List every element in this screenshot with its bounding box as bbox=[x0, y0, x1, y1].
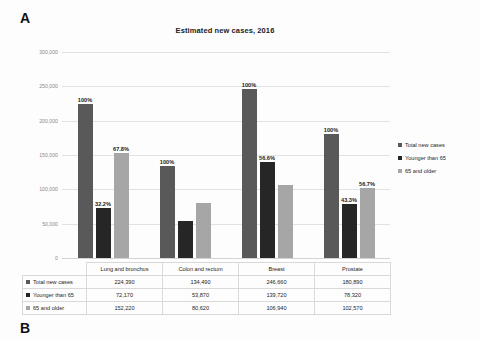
chart-bar: 100% bbox=[78, 104, 93, 258]
table-column-header: Breast bbox=[239, 263, 315, 276]
bar-value-label: 43.3% bbox=[341, 197, 357, 203]
bar-value-label: 100% bbox=[160, 159, 174, 165]
table-row: Younger than 6572,17053,870139,72078,320 bbox=[23, 289, 391, 302]
table-row-swatch-icon bbox=[26, 280, 30, 284]
legend-item-label: Younger than 65 bbox=[405, 155, 446, 161]
table-row: Total new cases224,390134,490246,660180,… bbox=[23, 276, 391, 289]
bar-value-label: 100% bbox=[324, 127, 338, 133]
table-row-swatch-icon bbox=[26, 293, 30, 297]
chart-bar: 56.7% bbox=[360, 188, 375, 258]
table-cell: 246,660 bbox=[239, 276, 315, 289]
table-header-row: Lung and bronchusColon and rectumBreastP… bbox=[23, 263, 391, 276]
bar-value-label: 56.7% bbox=[359, 181, 375, 187]
table-cell: 180,890 bbox=[315, 276, 391, 289]
legend-swatch-icon bbox=[398, 156, 402, 160]
chart-bar: 100% bbox=[242, 89, 257, 258]
table-row-header: 65 and older bbox=[23, 302, 87, 315]
table-cell: 152,220 bbox=[87, 302, 163, 315]
legend-item[interactable]: Younger than 65 bbox=[398, 155, 480, 161]
legend-swatch-icon bbox=[398, 143, 402, 147]
y-axis-tick-label: 100,000 bbox=[39, 186, 58, 192]
legend-item[interactable]: Total new cases bbox=[398, 142, 480, 148]
table-cell: 72,170 bbox=[87, 289, 163, 302]
table-cell: 53,870 bbox=[163, 289, 239, 302]
table-cell: 139,720 bbox=[239, 289, 315, 302]
chart-bar bbox=[178, 221, 193, 258]
chart-bar: 100% bbox=[324, 134, 339, 258]
chart-bar: 67.8% bbox=[114, 153, 129, 258]
chart-bar bbox=[278, 185, 293, 258]
chart-bar: 32.2% bbox=[96, 208, 111, 258]
table-row-header: Total new cases bbox=[23, 276, 87, 289]
chart-data-table: Lung and bronchusColon and rectumBreastP… bbox=[22, 262, 391, 315]
chart-bar: 43.3% bbox=[342, 204, 357, 258]
table-cell: 80,620 bbox=[163, 302, 239, 315]
table-column-header: Colon and rectum bbox=[163, 263, 239, 276]
table-column-header: Prostate bbox=[315, 263, 391, 276]
y-axis-tick-label: 150,000 bbox=[39, 152, 58, 158]
chart-bar: 100% bbox=[160, 166, 175, 258]
table-row-label: Total new cases bbox=[33, 279, 73, 285]
chart-bar bbox=[196, 203, 211, 258]
panel-label-b: B bbox=[20, 320, 30, 336]
y-axis-tick-label: 200,000 bbox=[39, 118, 58, 124]
bar-group: 100%43.3%56.7% bbox=[308, 52, 390, 258]
table-cell: 106,940 bbox=[239, 302, 315, 315]
table-cell: 102,570 bbox=[315, 302, 391, 315]
bar-group: 100%32.2%67.8% bbox=[62, 52, 144, 258]
table-corner-cell bbox=[23, 263, 87, 276]
table-cell: 224,390 bbox=[87, 276, 163, 289]
legend-item[interactable]: 65 and older bbox=[398, 168, 480, 174]
table-row-swatch-icon bbox=[26, 306, 30, 310]
table-row-label: Younger than 65 bbox=[33, 292, 74, 298]
bar-group: 100% bbox=[144, 52, 226, 258]
table-row: 65 and older152,22080,620106,940102,570 bbox=[23, 302, 391, 315]
y-axis-tick-label: 0 bbox=[55, 255, 58, 261]
chart-gridline: 0 bbox=[62, 258, 390, 259]
y-axis-tick-label: 250,000 bbox=[39, 83, 58, 89]
legend-item-label: Total new cases bbox=[405, 142, 445, 148]
chart-legend: Total new casesYounger than 6565 and old… bbox=[398, 142, 480, 181]
chart-plot-area: 300,000250,000200,000150,000100,00050,00… bbox=[62, 52, 390, 258]
table-column-header: Lung and bronchus bbox=[87, 263, 163, 276]
table-cell: 134,490 bbox=[163, 276, 239, 289]
bar-value-label: 32.2% bbox=[95, 201, 111, 207]
bar-value-label: 100% bbox=[78, 97, 92, 103]
table-row-label: 65 and older bbox=[33, 305, 64, 311]
chart-title: Estimated new cases, 2016 bbox=[60, 26, 390, 35]
legend-item-label: 65 and older bbox=[405, 168, 436, 174]
bar-value-label: 56.6% bbox=[259, 155, 275, 161]
table-cell: 78,320 bbox=[315, 289, 391, 302]
table-row-header: Younger than 65 bbox=[23, 289, 87, 302]
bar-value-label: 100% bbox=[242, 82, 256, 88]
legend-swatch-icon bbox=[398, 169, 402, 173]
y-axis-tick-label: 50,000 bbox=[42, 221, 58, 227]
bar-group: 100%56.6% bbox=[226, 52, 308, 258]
chart-bar: 56.6% bbox=[260, 162, 275, 258]
y-axis-tick-label: 300,000 bbox=[39, 49, 58, 55]
bar-value-label: 67.8% bbox=[113, 146, 129, 152]
